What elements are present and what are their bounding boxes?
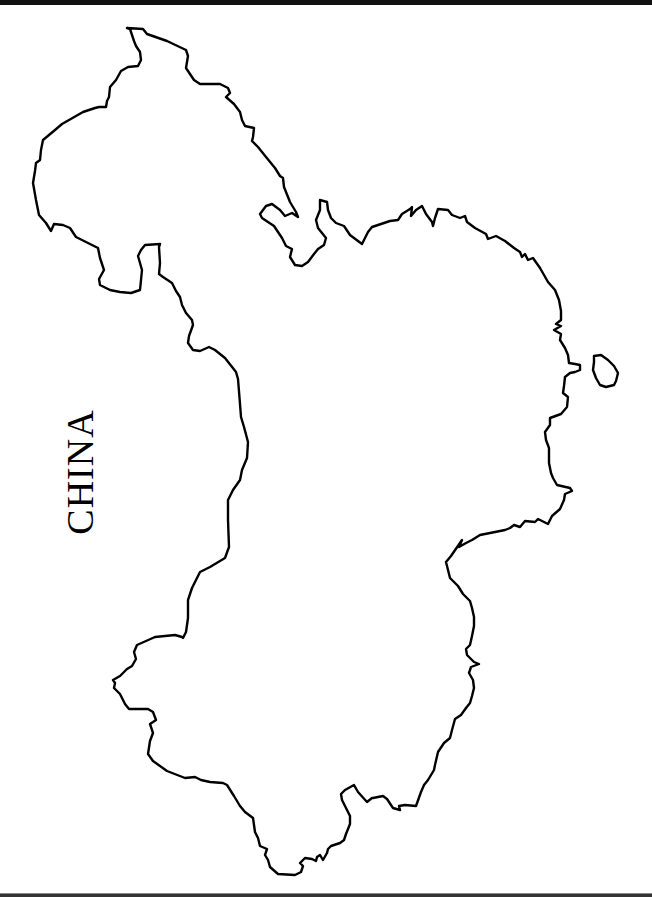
bottom-border-rule [0,893,652,897]
mainland-outline [33,28,580,875]
country-label: CHINA [58,409,102,534]
island-taiwan [593,355,618,387]
